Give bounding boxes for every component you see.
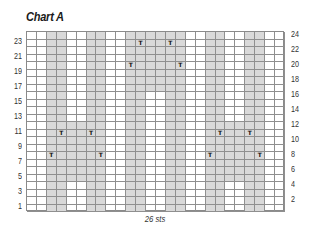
- chart-cell: [57, 100, 67, 108]
- chart-cell: [87, 47, 97, 55]
- chart-cell: [67, 55, 77, 63]
- chart-cell: [136, 62, 146, 70]
- chart-cell: [126, 175, 136, 183]
- chart-cell: [216, 47, 226, 55]
- chart-cell: [136, 107, 146, 115]
- chart-cell: [265, 92, 275, 100]
- chart-cell: [255, 190, 265, 198]
- chart-cell: [206, 100, 216, 108]
- chart-cell: [245, 100, 255, 108]
- chart-cell: T: [136, 40, 146, 48]
- chart-cell: [106, 145, 116, 153]
- chart-cell: T: [206, 152, 216, 160]
- chart-cell: [176, 175, 186, 183]
- chart-cell: [96, 77, 106, 85]
- chart-cell: [196, 167, 206, 175]
- chart-cell: [275, 160, 285, 168]
- chart-cell: [57, 107, 67, 115]
- chart-cell: [176, 160, 186, 168]
- chart-cell: [67, 145, 77, 153]
- chart-cell: [37, 137, 47, 145]
- chart-cell: [47, 85, 57, 93]
- chart-cell: [27, 92, 37, 100]
- chart-cell: [96, 175, 106, 183]
- chart-cell: [126, 182, 136, 190]
- chart-cell: [96, 92, 106, 100]
- chart-cell: [106, 40, 116, 48]
- chart-cell: [57, 160, 67, 168]
- chart-cell: [265, 77, 275, 85]
- chart-cell: [206, 47, 216, 55]
- chart-cell: [106, 130, 116, 138]
- chart-cell: [126, 197, 136, 205]
- chart-cell: [245, 182, 255, 190]
- chart-cell: [116, 152, 126, 160]
- chart-cell: [156, 190, 166, 198]
- chart-cell: [77, 55, 87, 63]
- chart-cell: [87, 205, 97, 213]
- chart-cell: [77, 137, 87, 145]
- chart-cell: [235, 107, 245, 115]
- chart-cell: [37, 85, 47, 93]
- chart-cell: [196, 100, 206, 108]
- stitch-symbol-icon: T: [258, 152, 262, 158]
- chart-cell: [166, 167, 176, 175]
- chart-cell: [136, 122, 146, 130]
- stitch-symbol-icon: T: [59, 130, 63, 136]
- chart-cell: [37, 77, 47, 85]
- chart-cell: [156, 160, 166, 168]
- chart-cell: [225, 205, 235, 213]
- chart-cell: [166, 107, 176, 115]
- chart-cell: [196, 32, 206, 40]
- chart-cell: [255, 62, 265, 70]
- chart-cell: [27, 175, 37, 183]
- chart-cell: [265, 85, 275, 93]
- chart-cell: [27, 32, 37, 40]
- chart-cell: [37, 175, 47, 183]
- chart-cell: [206, 40, 216, 48]
- chart-cell: [27, 130, 37, 138]
- row-label: 1: [11, 202, 22, 211]
- chart-cell: [136, 100, 146, 108]
- chart-cell: [136, 175, 146, 183]
- chart-cell: [206, 167, 216, 175]
- chart-cell: [77, 145, 87, 153]
- stitch-symbol-icon: T: [99, 152, 103, 158]
- chart-cell: [235, 122, 245, 130]
- chart-cell: [37, 70, 47, 78]
- chart-cell: [265, 55, 275, 63]
- chart-cell: [196, 77, 206, 85]
- chart-cell: [106, 55, 116, 63]
- chart-cell: [47, 182, 57, 190]
- chart-cell: [126, 190, 136, 198]
- chart-cell: [37, 32, 47, 40]
- chart-cell: [245, 47, 255, 55]
- chart-cell: [196, 62, 206, 70]
- chart-cell: [275, 205, 285, 213]
- chart-cell: [146, 55, 156, 63]
- chart-cell: [235, 85, 245, 93]
- chart-cell: [37, 167, 47, 175]
- chart-cell: [156, 107, 166, 115]
- chart-cell: [106, 85, 116, 93]
- chart-cell: [87, 115, 97, 123]
- chart-cell: [166, 77, 176, 85]
- chart-cell: [245, 115, 255, 123]
- chart-cell: [186, 190, 196, 198]
- chart-cell: [106, 122, 116, 130]
- chart-cell: [216, 107, 226, 115]
- chart-cell: [245, 77, 255, 85]
- chart-cell: [275, 152, 285, 160]
- chart-cell: [196, 152, 206, 160]
- row-label: 6: [291, 165, 295, 174]
- chart-cell: [216, 55, 226, 63]
- chart-cell: T: [176, 62, 186, 70]
- chart-cell: [126, 137, 136, 145]
- chart-cell: [216, 145, 226, 153]
- chart-cell: [87, 175, 97, 183]
- chart-cell: [27, 107, 37, 115]
- chart-cell: [146, 182, 156, 190]
- chart-cell: [136, 55, 146, 63]
- chart-cell: [57, 55, 67, 63]
- chart-cell: [146, 85, 156, 93]
